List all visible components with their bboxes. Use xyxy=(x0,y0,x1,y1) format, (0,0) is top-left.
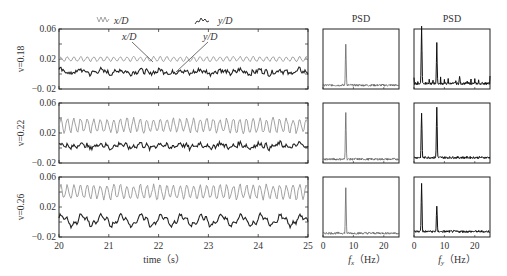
legend-x-swatch xyxy=(97,17,109,22)
y-tick-label: 0.02 xyxy=(39,128,56,138)
timeseries-panel-frame xyxy=(59,103,308,163)
time-tick-label: 25 xyxy=(303,241,313,251)
annotation-y: y/D xyxy=(202,31,218,42)
y-tick-label: 0.02 xyxy=(39,54,56,64)
psd-x-tick-label: 10 xyxy=(349,241,359,251)
y-tick-label: 0.06 xyxy=(39,24,56,34)
legend-x-label: x/D xyxy=(113,15,129,26)
psd-y-panel-frame xyxy=(414,177,490,237)
psd-x-panel-frame xyxy=(323,103,399,163)
row-label: v=0.22 xyxy=(16,119,26,146)
legend-y-swatch xyxy=(195,18,209,24)
psd-y-title: PSD xyxy=(443,13,461,24)
row-label: v=0.18 xyxy=(16,45,26,72)
time-tick-label: 24 xyxy=(253,241,263,251)
psd-x-title: PSD xyxy=(352,13,370,24)
psd-x-panel-frame xyxy=(323,29,399,89)
time-tick-label: 21 xyxy=(104,241,114,251)
annotation-x: x/D xyxy=(121,31,137,42)
y-tick-label: 0.06 xyxy=(39,98,56,108)
y-tick-label: −0. 02 xyxy=(32,232,57,242)
fy-axis-label: fy（Hz） xyxy=(438,254,476,267)
psd-y-panel-frame xyxy=(414,103,490,163)
timeseries-panel-frame xyxy=(59,29,308,89)
time-tick-label: 20 xyxy=(54,241,64,251)
row-label: v=0.26 xyxy=(16,193,26,220)
psd-x-tick-label: 0 xyxy=(321,241,326,251)
time-tick-label: 23 xyxy=(204,241,214,251)
legend: x/D y/D xyxy=(97,15,233,26)
y-tick-label: −0. 02 xyxy=(32,158,57,168)
psd-x-tick-label: 20 xyxy=(379,241,389,251)
time-tick-label: 22 xyxy=(154,241,164,251)
figure: x/D y/D PSD PSD 0.060.02−0. 02v=0.180.06… xyxy=(0,0,507,276)
y-tick-label: −0. 02 xyxy=(32,84,57,94)
psd-x-tick-label: 0 xyxy=(412,241,417,251)
timeseries-panel-frame xyxy=(59,177,308,237)
y-tick-label: 0.06 xyxy=(39,172,56,182)
y-tick-label: 0.02 xyxy=(39,202,56,212)
psd-x-tick-label: 10 xyxy=(440,241,450,251)
time-axis-label: time（s） xyxy=(143,254,185,265)
psd-x-panel-frame xyxy=(323,177,399,237)
fx-axis-label: fx（Hz） xyxy=(348,254,386,267)
legend-y-label: y/D xyxy=(217,15,233,26)
psd-x-tick-label: 20 xyxy=(470,241,480,251)
